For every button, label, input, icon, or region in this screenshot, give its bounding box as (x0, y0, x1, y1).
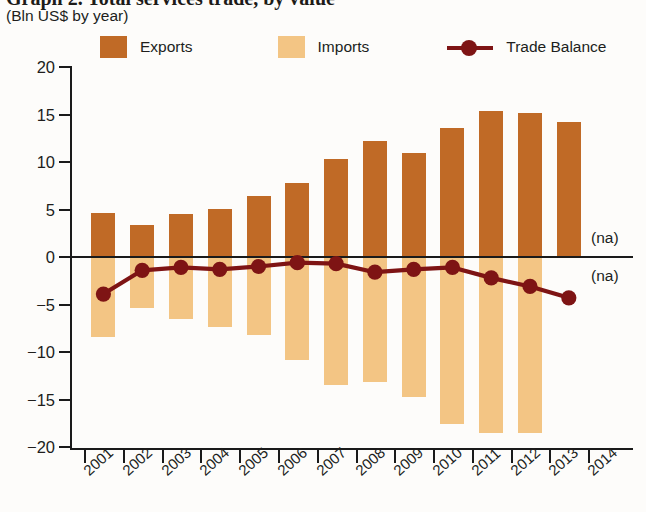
y-axis-label: −15 (27, 390, 55, 409)
y-axis-label: −20 (27, 438, 55, 457)
trade-balance-marker-2005[interactable] (251, 259, 266, 274)
trade-balance-marker-2007[interactable] (329, 256, 344, 271)
line-with-dot-marker (447, 36, 493, 58)
square-swatch (278, 36, 305, 58)
legend-label: Exports (140, 38, 193, 56)
trade-balance-marker-2012[interactable] (522, 279, 537, 294)
chart-subtitle: (Bln US$ by year) (6, 7, 128, 25)
trade-balance-marker-2009[interactable] (406, 262, 421, 277)
y-axis-label: 15 (37, 105, 55, 124)
y-axis-label: 0 (46, 248, 55, 267)
trade-balance-marker-2010[interactable] (445, 260, 460, 275)
chart-canvas: Graph 2. Total services trade, by value … (0, 0, 646, 512)
trade-balance-marker-2003[interactable] (173, 260, 188, 275)
y-axis-label: −5 (36, 295, 55, 314)
y-axis-label: 5 (46, 200, 55, 219)
trade-balance-marker-2013[interactable] (561, 290, 576, 305)
trade-balance-marker-2011[interactable] (484, 270, 499, 285)
na-label-lower: (na) (591, 267, 619, 285)
legend-label: Trade Balance (506, 38, 606, 56)
plot-area: 20151050−5−10−15−20 20012002200320042005… (70, 60, 633, 450)
trade-balance-marker-2004[interactable] (212, 262, 227, 277)
trade-balance-marker-2001[interactable] (96, 286, 111, 301)
chart-legend: ExportsImportsTrade Balance (100, 36, 607, 58)
na-label-upper: (na) (591, 229, 619, 247)
legend-item-exports[interactable]: Exports (100, 36, 193, 58)
trade-balance-marker-2002[interactable] (135, 263, 150, 278)
trade-balance-line (70, 60, 633, 450)
legend-item-imports[interactable]: Imports (278, 36, 370, 58)
square-swatch (100, 36, 127, 58)
legend-label: Imports (318, 38, 370, 56)
y-axis-label: −10 (27, 343, 55, 362)
y-axis-label: 10 (37, 153, 55, 172)
trade-balance-marker-2008[interactable] (367, 265, 382, 280)
trade-balance-marker-2006[interactable] (290, 255, 305, 270)
y-axis-label: 20 (37, 58, 55, 77)
legend-item-trade-balance[interactable]: Trade Balance (447, 36, 606, 58)
